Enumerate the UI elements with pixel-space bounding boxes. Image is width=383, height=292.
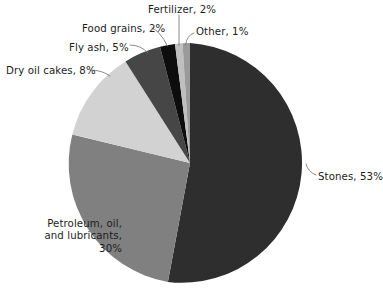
slice-label-fertilizer: Fertilizer, 2% [148, 4, 216, 16]
slice-label-petroleum-line1: Petroleum, oil, [47, 218, 122, 229]
slice-label-petroleum-line2: and lubricants, [44, 230, 122, 241]
slice-label-stones: Stones, 53% [318, 171, 383, 183]
slice-label-other: Other, 1% [196, 26, 248, 38]
slice-label-fly-ash: Fly ash, 5% [69, 42, 129, 54]
slice-label-petroleum: Petroleum, oil, and lubricants, 30% [18, 218, 122, 255]
slice-label-petroleum-line3: 30% [99, 243, 122, 254]
slice-label-food-grains: Food grains, 2% [82, 23, 165, 35]
slice-label-dry-oil-cakes: Dry oil cakes, 8% [6, 65, 96, 77]
leader-line-stones [306, 164, 316, 175]
